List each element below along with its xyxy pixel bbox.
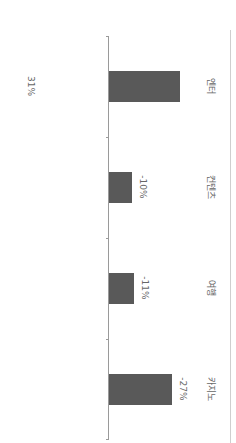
- category-label-contents: 컨텐츠: [205, 157, 218, 217]
- bar-contents: [109, 172, 132, 203]
- axis-tick: [106, 238, 109, 239]
- category-label-casino: 카지노: [205, 359, 218, 419]
- bar-casino: [109, 374, 172, 405]
- value-label-contents: -10%: [138, 167, 148, 207]
- bar-chart: 31% 엔터 -10% 컨텐츠 -11% 여행 -27% 카지노: [0, 0, 236, 443]
- axis-tick: [106, 439, 109, 440]
- value-label-travel: -11%: [140, 268, 150, 308]
- axis-tick: [106, 36, 109, 37]
- axis-tick: [106, 339, 109, 340]
- category-label-travel: 여행: [205, 258, 218, 318]
- bar-travel: [109, 273, 134, 304]
- category-label-enter: 엔터: [205, 56, 218, 116]
- value-label-casino: -27%: [178, 369, 188, 409]
- bar-enter: [109, 71, 180, 102]
- axis-tick: [106, 137, 109, 138]
- chart-border-line: [230, 30, 231, 443]
- value-label-enter: 31%: [26, 66, 36, 106]
